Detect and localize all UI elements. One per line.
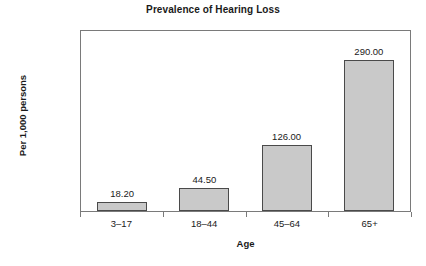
bar[interactable] <box>344 60 394 211</box>
bar-value-label: 290.00 <box>354 46 383 57</box>
chart-title: Prevalence of Hearing Loss <box>0 4 426 15</box>
x-axis-tick-label: 18–44 <box>163 218 246 229</box>
x-axis-tick-mark <box>411 212 412 217</box>
bar-slot: 18.20 <box>81 31 163 211</box>
bar-value-label: 126.00 <box>272 131 301 142</box>
x-axis-tick-mark <box>328 212 329 217</box>
bar[interactable] <box>97 202 147 211</box>
bar-value-label: 18.20 <box>110 188 134 199</box>
plot-area: 18.20 44.50 126.00 290.00 <box>80 30 411 212</box>
x-axis-tick-mark <box>163 212 164 217</box>
bar-slot: 44.50 <box>163 31 245 211</box>
x-axis-title: Age <box>80 238 411 249</box>
bar-value-label: 44.50 <box>192 174 216 185</box>
bar[interactable] <box>179 188 229 211</box>
x-axis-tick-label: 3–17 <box>80 218 163 229</box>
x-axis-tick-label: 65+ <box>328 218 411 229</box>
x-axis-tick-label: 45–64 <box>246 218 329 229</box>
x-axis-tick-mark <box>246 212 247 217</box>
bar-slot: 126.00 <box>246 31 328 211</box>
bar-slot: 290.00 <box>328 31 410 211</box>
bar[interactable] <box>262 145 312 211</box>
x-axis-tick-mark <box>80 212 81 217</box>
bar-chart-figure: Prevalence of Hearing Loss Per 1,000 per… <box>0 0 426 266</box>
y-axis-title: Per 1,000 persons <box>17 56 28 176</box>
